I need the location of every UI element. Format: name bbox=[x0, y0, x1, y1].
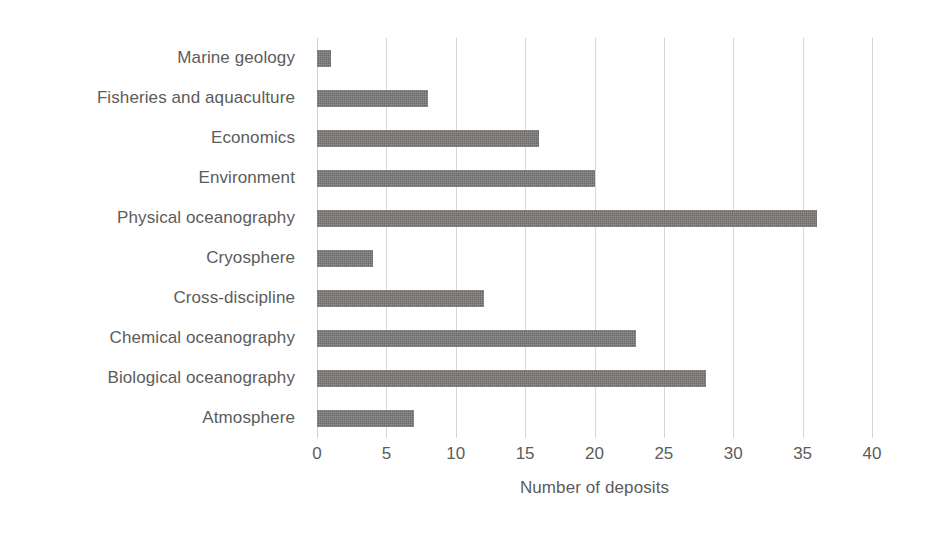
category-label: Marine geology bbox=[0, 38, 307, 78]
bar-row bbox=[317, 278, 872, 318]
value-tick-label: 35 bbox=[793, 444, 812, 464]
bar bbox=[317, 330, 636, 347]
gridline bbox=[872, 38, 873, 438]
value-axis-ticks: 0510152025303540 bbox=[317, 444, 872, 470]
bar bbox=[317, 210, 817, 227]
bar bbox=[317, 130, 539, 147]
bar bbox=[317, 90, 428, 107]
value-tick-label: 40 bbox=[863, 444, 882, 464]
bar-row bbox=[317, 198, 872, 238]
bar bbox=[317, 410, 414, 427]
plot-area bbox=[317, 38, 872, 438]
value-tick-label: 25 bbox=[654, 444, 673, 464]
bar-row bbox=[317, 358, 872, 398]
bar-row bbox=[317, 78, 872, 118]
bar-row bbox=[317, 118, 872, 158]
bar-row bbox=[317, 38, 872, 78]
bar bbox=[317, 170, 595, 187]
value-tick-label: 5 bbox=[382, 444, 391, 464]
category-label: Atmosphere bbox=[0, 398, 307, 438]
value-tick-label: 15 bbox=[516, 444, 535, 464]
category-label: Cryosphere bbox=[0, 238, 307, 278]
value-tick-label: 0 bbox=[312, 444, 321, 464]
value-axis-title: Number of deposits bbox=[317, 478, 872, 498]
category-axis: Marine geologyFisheries and aquacultureE… bbox=[0, 38, 307, 438]
category-label: Cross-discipline bbox=[0, 278, 307, 318]
bar bbox=[317, 50, 331, 67]
bar bbox=[317, 370, 706, 387]
value-tick-label: 10 bbox=[446, 444, 465, 464]
category-label: Economics bbox=[0, 118, 307, 158]
value-tick-label: 30 bbox=[724, 444, 743, 464]
value-tick-label: 20 bbox=[585, 444, 604, 464]
category-label: Physical oceanography bbox=[0, 198, 307, 238]
category-label: Environment bbox=[0, 158, 307, 198]
bar-row bbox=[317, 318, 872, 358]
bar-row bbox=[317, 158, 872, 198]
bar bbox=[317, 250, 373, 267]
category-label: Biological oceanography bbox=[0, 358, 307, 398]
bars-layer bbox=[317, 38, 872, 438]
category-label: Chemical oceanography bbox=[0, 318, 307, 358]
bar bbox=[317, 290, 484, 307]
bar-chart-figure: Marine geologyFisheries and aquacultureE… bbox=[0, 0, 939, 550]
bar-row bbox=[317, 398, 872, 438]
category-label: Fisheries and aquaculture bbox=[0, 78, 307, 118]
bar-row bbox=[317, 238, 872, 278]
